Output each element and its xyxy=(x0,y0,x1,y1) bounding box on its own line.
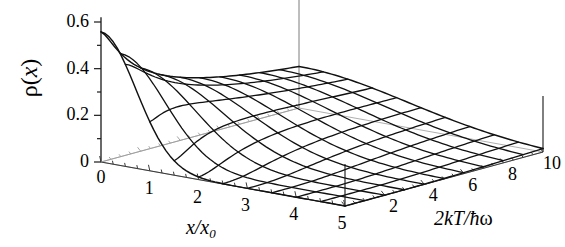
x-denominator: x xyxy=(200,216,209,238)
x-tick-label-2: 2 xyxy=(185,188,209,206)
depth-tick-label-10: 10 xyxy=(539,154,565,172)
paren-close: ) xyxy=(16,59,42,67)
y-tick-label-2: 0.2 xyxy=(43,105,89,123)
depth-axis-title: 2kT/ħω xyxy=(434,208,493,228)
paren-open: ( xyxy=(16,77,42,85)
T-glyph: T xyxy=(453,207,464,229)
omega-glyph: ω xyxy=(480,207,493,229)
x-numerator: x xyxy=(186,216,195,238)
x-tick-label-3: 3 xyxy=(234,196,258,214)
hbar-glyph: ħ xyxy=(470,207,480,229)
depth-tick-label-8: 8 xyxy=(499,165,525,183)
rho-glyph: ρ xyxy=(16,85,42,97)
y-tick-label-0: 0.6 xyxy=(43,12,89,30)
depth-tick-label-4: 4 xyxy=(420,186,446,204)
y-axis-title: ρ(x) xyxy=(17,43,41,113)
k-glyph: k xyxy=(444,207,453,229)
x-tick-label-5: 5 xyxy=(330,214,354,232)
depth-tick-label-2: 2 xyxy=(381,197,407,215)
x-tick-label-1: 1 xyxy=(137,179,161,197)
x-tick-label-0: 0 xyxy=(89,168,113,186)
depth-tick-label-6: 6 xyxy=(460,176,486,194)
x-tick-label-4: 4 xyxy=(282,205,306,223)
y-tick-label-3: 0 xyxy=(43,152,89,170)
coef-2: 2 xyxy=(434,207,444,229)
y-tick-label-1: 0.4 xyxy=(43,59,89,77)
x-axis-title: x/x0 xyxy=(186,217,216,240)
x-subscript-zero: 0 xyxy=(209,226,216,241)
x-var-glyph: x xyxy=(16,67,42,78)
